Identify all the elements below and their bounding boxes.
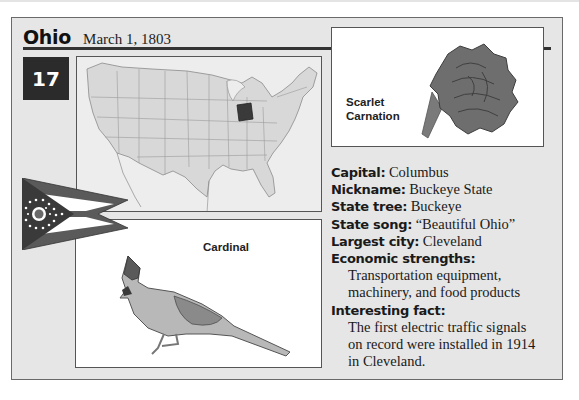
nickname-label: Nickname: bbox=[331, 182, 406, 197]
statehood-date: March 1, 1803 bbox=[83, 31, 171, 48]
fact-tree: State tree: Buckeye bbox=[331, 198, 561, 215]
largest-city-value: Cleveland bbox=[423, 233, 482, 249]
flower-label: Scarlet Carnation bbox=[346, 95, 416, 123]
interesting-fact-line-3: in Cleveland. bbox=[331, 353, 561, 370]
flower-label-line2: Carnation bbox=[346, 109, 416, 123]
ohio-highlight bbox=[237, 103, 253, 121]
state-name: Ohio bbox=[23, 26, 71, 48]
statehood-order-badge: 17 bbox=[23, 57, 69, 100]
state-flower-panel: Scarlet Carnation bbox=[331, 27, 544, 147]
capital-label: Capital: bbox=[331, 165, 385, 180]
fact-capital: Capital: Columbus bbox=[331, 164, 561, 181]
capital-value: Columbus bbox=[389, 164, 449, 180]
nickname-value: Buckeye State bbox=[409, 181, 492, 197]
economy-line-1: Transportation equipment, bbox=[331, 267, 561, 284]
interesting-fact-line-1: The first electric traffic signals bbox=[331, 319, 561, 336]
fact-interesting-heading: Interesting fact: bbox=[331, 302, 561, 319]
fact-song: State song: “Beautiful Ohio” bbox=[331, 216, 561, 233]
fact-nickname: Nickname: Buckeye State bbox=[331, 181, 561, 198]
ohio-flag-icon bbox=[22, 178, 130, 250]
song-label: State song: bbox=[331, 217, 412, 232]
fact-largest-city: Largest city: Cleveland bbox=[331, 233, 561, 250]
interesting-fact-label: Interesting fact: bbox=[331, 303, 445, 318]
carnation-icon bbox=[412, 36, 532, 146]
economy-line-2: machinery, and food products bbox=[331, 284, 561, 301]
tree-value: Buckeye bbox=[411, 198, 462, 214]
fact-economy-heading: Economic strengths: bbox=[331, 250, 561, 267]
economy-label: Economic strengths: bbox=[331, 251, 475, 266]
tree-label: State tree: bbox=[331, 199, 407, 214]
top-divider bbox=[0, 0, 579, 2]
title-row: Ohio March 1, 1803 bbox=[23, 26, 171, 48]
interesting-fact-line-2: on record were installed in 1914 bbox=[331, 336, 561, 353]
largest-city-label: Largest city: bbox=[331, 234, 419, 249]
flower-label-line1: Scarlet bbox=[346, 95, 416, 109]
cardinal-icon bbox=[104, 248, 300, 360]
song-value: “Beautiful Ohio” bbox=[416, 216, 515, 232]
state-facts: Capital: Columbus Nickname: Buckeye Stat… bbox=[331, 164, 561, 370]
